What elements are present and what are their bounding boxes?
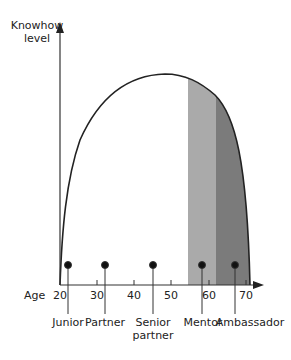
- stage-marker-senior-partner: [150, 262, 157, 315]
- tick-40: 40: [127, 290, 141, 302]
- stage-label-partner: Partner: [85, 317, 125, 329]
- tick-70: 70: [239, 290, 253, 302]
- x-axis-label: Age: [24, 290, 45, 302]
- x-axis-arrow-icon: [253, 281, 264, 289]
- ambassador-band: [216, 60, 251, 285]
- stage-marker-partner: [102, 262, 109, 315]
- stage-label-senior: Senior: [135, 317, 170, 329]
- tick-60: 60: [202, 290, 216, 302]
- y-axis-label-line2: level: [24, 33, 50, 45]
- stage-label-ambassador: Ambassador: [216, 317, 284, 329]
- tick-30: 30: [90, 290, 104, 302]
- y-axis-label-line1: Knowhow: [11, 20, 64, 32]
- tick-20: 20: [53, 290, 67, 302]
- stage-label-senior-partner-line2: partner: [133, 330, 174, 342]
- knowhow-chart: [0, 0, 291, 360]
- tick-50: 50: [164, 290, 178, 302]
- mentor-band: [188, 60, 216, 285]
- stage-marker-junior: [65, 262, 72, 315]
- stage-label-junior: Junior: [52, 317, 84, 329]
